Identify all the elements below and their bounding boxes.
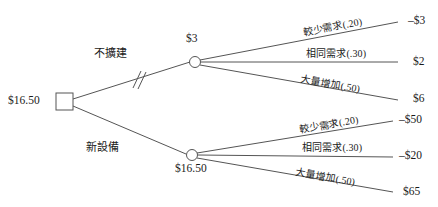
payoff-new-equipment-1: –$50 xyxy=(399,114,422,126)
payoff-no-expand-2: $2 xyxy=(413,56,425,68)
outcome-text-new-equipment-2: 相同需求 xyxy=(302,142,342,153)
branch-label-no-expand: 不擴建 xyxy=(94,48,128,59)
branch-label-new-equipment: 新設備 xyxy=(86,142,120,153)
outcome-line-new-equipment-1 xyxy=(197,121,393,153)
outcome-prob-no-expand-2: (.30) xyxy=(346,48,366,59)
outcome-prob-new-equipment-2: (.30) xyxy=(342,142,362,153)
chance-node-circle-no-expand[interactable] xyxy=(190,57,201,68)
outcome-line-new-equipment-2 xyxy=(198,155,393,157)
payoff-no-expand-3: $6 xyxy=(413,93,425,105)
outcome-line-no-expand-1 xyxy=(200,22,398,60)
decision-tree-lines xyxy=(0,0,438,207)
chance-node-value-no-expand: $3 xyxy=(186,33,198,45)
payoff-new-equipment-3: $65 xyxy=(403,186,420,198)
outcome-label-no-expand-2: 相同需求(.30) xyxy=(306,49,366,59)
root-value-label: $16.50 xyxy=(8,95,40,107)
outcome-line-no-expand-3 xyxy=(200,65,398,100)
chance-node-circle-new-equipment[interactable] xyxy=(187,150,198,161)
outcome-label-new-equipment-2: 相同需求(.30) xyxy=(302,143,362,153)
chance-node-value-new-equipment: $16.50 xyxy=(175,163,207,175)
decision-tree-diagram: $16.50 不擴建 新設備 $3 $16.50 較少需求(.20) 相同需求(… xyxy=(0,0,438,207)
decision-node-square[interactable] xyxy=(56,93,73,110)
payoff-no-expand-1: –$3 xyxy=(408,15,425,27)
branch-line-no-expand xyxy=(73,62,190,99)
payoff-new-equipment-2: –$20 xyxy=(399,150,422,162)
outcome-text-no-expand-2: 相同需求 xyxy=(306,48,346,59)
